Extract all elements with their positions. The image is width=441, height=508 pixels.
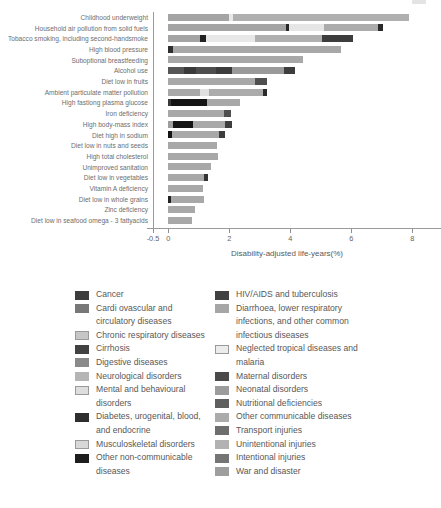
legend-label: Diabetes, urogenital, blood, and endocri… <box>96 410 207 437</box>
bar-row <box>168 153 218 160</box>
row-label: Diet low in nuts and seeds <box>2 141 148 150</box>
x-axis-tick-label: 2 <box>227 234 231 243</box>
bar-segment <box>171 196 204 203</box>
bar-segment <box>207 99 240 106</box>
bar-segment <box>255 78 267 85</box>
legend-swatch <box>75 291 89 300</box>
row-label: Diet high in sodium <box>2 131 148 140</box>
bar-segment <box>168 24 286 31</box>
x-axis-title: Disability-adjusted life-years(%) <box>231 249 343 258</box>
legend-item: Musculoskeletal disorders <box>75 438 207 452</box>
legend-item: Mental and behavioural disorders <box>75 383 207 410</box>
legend-item: Maternal disorders <box>215 370 383 384</box>
legend-label: Other communicable diseases <box>236 410 352 424</box>
stacked-bar-chart: Disability-adjusted life-years(%) Childh… <box>0 0 434 285</box>
bar-segment <box>168 217 191 224</box>
row-label: High fastiong plasma glucose <box>2 98 148 107</box>
legend-item: Neonatal disorders <box>215 383 383 397</box>
legend-swatch <box>215 386 229 395</box>
bar-segment <box>168 56 303 63</box>
legend-item: Other communicable diseases <box>215 410 383 424</box>
bar-segment <box>168 35 200 42</box>
bar-row <box>168 78 267 85</box>
bar-segment <box>171 99 207 106</box>
legend-swatch <box>75 454 89 463</box>
bar-segment <box>233 14 408 21</box>
legend-swatch <box>215 399 229 408</box>
legend-swatch <box>215 291 229 300</box>
legend-label: Maternal disorders <box>236 370 307 384</box>
legend-label: Intentional injuries <box>236 451 305 465</box>
legend-label: Diarrhoea, lower respiratory infections,… <box>236 302 383 343</box>
legend-swatch <box>75 358 89 367</box>
bar-segment <box>255 35 322 42</box>
legend-swatch <box>215 440 229 449</box>
legend-label: Unintentional injuries <box>236 438 316 452</box>
legend-swatch <box>75 386 89 395</box>
row-label: Household air pollution from solid fuels <box>2 24 148 33</box>
x-axis-tick <box>351 229 352 233</box>
legend-item: HIV/AIDS and tuberculosis <box>215 288 383 302</box>
x-axis-tick-label: 8 <box>410 234 414 243</box>
legend-swatch <box>75 372 89 381</box>
bar-segment <box>168 67 183 74</box>
row-label: Tobacco smoking, including second-handsm… <box>2 34 148 43</box>
legend-item: Chronic respiratory diseases <box>75 329 207 343</box>
bar-segment <box>172 131 220 138</box>
bar-row <box>168 24 383 31</box>
legend-item: War and disaster <box>215 465 383 479</box>
legend-label: Neurological disorders <box>96 370 182 384</box>
row-label: Diet low in vegetables <box>2 173 148 182</box>
bar-row <box>168 121 232 128</box>
legend-item: Unintentional injuries <box>215 438 383 452</box>
bar-segment <box>322 35 353 42</box>
legend-label: Nutritional deficiencies <box>236 397 322 411</box>
bar-segment <box>168 153 218 160</box>
legend-swatch <box>215 413 229 422</box>
row-label: Iron deficiency <box>2 109 148 118</box>
bar-segment <box>209 89 264 96</box>
bar-segment <box>168 89 200 96</box>
bar-segment <box>378 24 383 31</box>
bar-row <box>168 110 231 117</box>
legend-label: Transport injuries <box>236 424 302 438</box>
legend-swatch <box>75 413 89 422</box>
bar-row <box>168 217 191 224</box>
bar-segment <box>284 67 295 74</box>
legend-item: Digestive diseases <box>75 356 207 370</box>
bar-segment <box>216 67 232 74</box>
bar-segment <box>196 67 216 74</box>
bar-segment <box>168 14 228 21</box>
legend-swatch <box>215 454 229 463</box>
x-axis-tick-label: 0 <box>166 234 170 243</box>
row-label: Unimproved sanitation <box>2 163 148 172</box>
x-axis-tick <box>229 229 230 233</box>
legend-swatch <box>215 426 229 435</box>
legend-item: Intentional injuries <box>215 451 383 465</box>
legend-item: Cancer <box>75 288 207 302</box>
bar-segment <box>225 121 232 128</box>
row-label: Alcohol use <box>2 66 148 75</box>
bar-segment <box>168 174 204 181</box>
bar-row <box>168 185 203 192</box>
bar-segment <box>168 206 195 213</box>
bar-segment <box>168 110 224 117</box>
legend-item: Neglected tropical diseases and malaria <box>215 342 383 369</box>
bar-segment <box>168 78 255 85</box>
bar-segment <box>168 142 217 149</box>
bar-segment <box>193 121 225 128</box>
x-axis-tick <box>153 229 154 233</box>
row-label: High total cholesterol <box>2 152 148 161</box>
bar-row <box>168 163 211 170</box>
row-label: High body-mass index <box>2 120 148 129</box>
bar-segment <box>219 131 225 138</box>
bar-row <box>168 46 341 53</box>
legend-label: Chronic respiratory diseases <box>96 329 205 343</box>
bar-segment <box>206 35 255 42</box>
row-label: Childhood underweight <box>2 13 148 22</box>
legend-label: Digestive diseases <box>96 356 168 370</box>
legend-swatch <box>75 440 89 449</box>
bar-row <box>168 14 408 21</box>
row-label: High blood pressure <box>2 45 148 54</box>
legend-label: Musculoskeletal disorders <box>96 438 195 452</box>
